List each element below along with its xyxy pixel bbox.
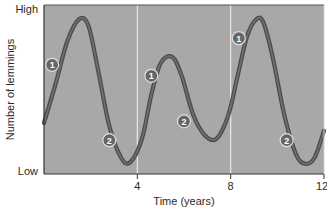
marker-label: 1 — [236, 34, 241, 44]
x-axis-label: Time (years) — [153, 195, 214, 207]
phase-marker-2: 2 — [103, 134, 116, 147]
marker-label: 2 — [284, 136, 289, 146]
marker-label: 1 — [149, 71, 154, 81]
x-tick-label: 4 — [134, 180, 140, 192]
phase-marker-1: 1 — [145, 69, 158, 82]
marker-label: 2 — [107, 136, 112, 146]
phase-marker-2: 2 — [178, 115, 191, 128]
y-tick-label-low: Low — [18, 165, 38, 177]
phase-marker-1: 1 — [46, 58, 59, 71]
population-chart: 121212 4812 HighLow Time (years) Number … — [0, 0, 327, 210]
phase-marker-2: 2 — [280, 134, 293, 147]
marker-label: 1 — [50, 60, 55, 70]
x-tick-label: 8 — [228, 180, 234, 192]
phase-marker-1: 1 — [232, 32, 245, 45]
y-tick-label-high: High — [15, 3, 38, 15]
marker-label: 2 — [181, 117, 186, 127]
y-axis-label: Number of lemmings — [4, 38, 16, 140]
x-tick-label: 12 — [316, 180, 327, 192]
